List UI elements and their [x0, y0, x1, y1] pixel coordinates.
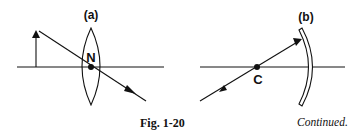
panel-a-label: (a) [84, 8, 99, 22]
ray-through-center [200, 41, 299, 101]
figure-caption: Fig. 1-20 [140, 116, 185, 131]
center-of-curvature-label: C [253, 72, 263, 87]
ray-arrowhead-icon [124, 85, 136, 94]
nodal-point-label: N [86, 50, 95, 65]
panel-b: (b) C [200, 10, 345, 106]
panel-b-label: (b) [298, 10, 313, 24]
panel-a: (a) N [17, 8, 164, 105]
center-of-curvature-dot [254, 64, 260, 70]
continued-note: Continued. [297, 116, 348, 128]
object-arrowhead-icon [32, 30, 40, 38]
incident-arrowhead-icon [293, 38, 302, 46]
